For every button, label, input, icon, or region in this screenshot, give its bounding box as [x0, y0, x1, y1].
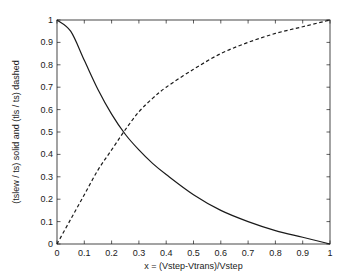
solid-curve-tslew-ts [57, 20, 330, 244]
x-tick-label: 0.2 [105, 248, 118, 258]
x-tick-label: 0.5 [187, 248, 200, 258]
x-tick-label: 0.7 [242, 248, 255, 258]
x-tick-label: 0.8 [269, 248, 282, 258]
y-axis-tick-labels: 00.10.20.30.40.50.60.70.80.91 [40, 15, 53, 249]
y-tick-label: 0.1 [40, 217, 53, 227]
x-tick-label: 0 [54, 248, 59, 258]
x-tick-label: 0.4 [160, 248, 173, 258]
plot-curves [57, 20, 330, 244]
x-tick-label: 0.1 [78, 248, 91, 258]
dashed-curve-tls-ts [57, 20, 330, 244]
y-tick-label: 0.5 [40, 127, 53, 137]
y-tick-label: 0 [48, 239, 53, 249]
y-tick-label: 0.9 [40, 37, 53, 47]
line-chart: 00.10.20.30.40.50.60.70.80.91 00.10.20.3… [0, 0, 349, 276]
x-axis-label: x = (Vstep-Vtrans)/Vstep [144, 261, 242, 271]
y-tick-label: 0.7 [40, 82, 53, 92]
y-tick-label: 0.8 [40, 60, 53, 70]
y-tick-label: 0.6 [40, 105, 53, 115]
y-tick-label: 1 [48, 15, 53, 25]
axis-ticks [57, 20, 330, 244]
x-tick-label: 0.9 [296, 248, 309, 258]
x-tick-label: 0.3 [133, 248, 146, 258]
y-tick-label: 0.3 [40, 172, 53, 182]
y-axis-label: (tslew / ts) solid and (tls / ts) dashed [11, 60, 21, 204]
x-tick-label: 0.6 [215, 248, 228, 258]
plot-area-frame [57, 20, 330, 244]
y-tick-label: 0.2 [40, 194, 53, 204]
x-axis-tick-labels: 00.10.20.30.40.50.60.70.80.91 [54, 248, 332, 258]
x-tick-label: 1 [327, 248, 332, 258]
y-tick-label: 0.4 [40, 149, 53, 159]
